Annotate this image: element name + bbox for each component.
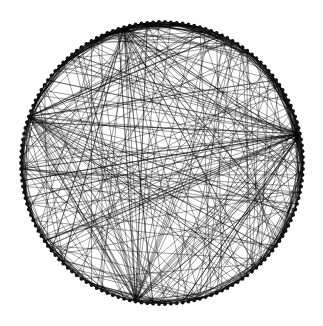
node bbox=[267, 69, 271, 73]
node bbox=[111, 293, 115, 297]
node bbox=[298, 132, 302, 136]
node bbox=[259, 262, 263, 266]
node bbox=[117, 295, 121, 299]
node bbox=[111, 29, 115, 33]
node bbox=[85, 280, 89, 284]
node bbox=[278, 239, 282, 243]
node bbox=[80, 277, 84, 281]
node bbox=[20, 149, 24, 153]
node bbox=[90, 39, 94, 43]
node bbox=[271, 249, 275, 253]
node bbox=[70, 270, 74, 274]
node bbox=[241, 45, 245, 49]
node bbox=[181, 22, 185, 26]
node bbox=[151, 302, 155, 306]
node bbox=[34, 224, 38, 228]
node bbox=[271, 74, 275, 78]
node bbox=[140, 301, 144, 305]
node bbox=[22, 190, 26, 194]
node bbox=[43, 83, 47, 87]
node bbox=[267, 253, 271, 257]
node bbox=[220, 289, 224, 293]
node bbox=[293, 208, 297, 212]
node bbox=[293, 115, 297, 119]
node bbox=[66, 266, 70, 270]
node bbox=[19, 161, 23, 165]
node bbox=[29, 109, 33, 113]
node bbox=[75, 273, 79, 277]
node bbox=[295, 202, 299, 206]
node bbox=[250, 270, 254, 274]
node bbox=[284, 93, 288, 97]
node bbox=[192, 24, 196, 28]
node bbox=[61, 60, 65, 64]
node bbox=[278, 83, 282, 87]
node bbox=[284, 229, 288, 233]
node bbox=[19, 155, 23, 159]
node bbox=[299, 138, 303, 142]
node bbox=[192, 298, 196, 302]
node bbox=[21, 185, 25, 189]
node bbox=[134, 300, 138, 304]
node bbox=[37, 93, 41, 97]
node bbox=[25, 202, 29, 206]
edges-layer bbox=[21, 22, 303, 304]
node bbox=[95, 36, 99, 40]
node bbox=[100, 289, 104, 293]
node bbox=[198, 297, 202, 301]
node bbox=[281, 234, 285, 238]
node bbox=[66, 56, 70, 60]
node bbox=[263, 258, 267, 262]
node bbox=[61, 262, 65, 266]
node bbox=[263, 65, 267, 69]
node bbox=[298, 190, 302, 194]
node bbox=[175, 21, 179, 25]
node bbox=[122, 297, 126, 301]
node bbox=[27, 208, 31, 212]
node bbox=[295, 120, 299, 124]
node bbox=[34, 98, 38, 102]
node bbox=[301, 161, 305, 165]
node bbox=[134, 23, 138, 27]
node bbox=[46, 78, 50, 82]
node bbox=[301, 167, 305, 171]
node bbox=[43, 239, 47, 243]
node bbox=[22, 132, 26, 136]
node bbox=[40, 234, 44, 238]
node bbox=[225, 36, 229, 40]
node bbox=[274, 78, 278, 82]
node bbox=[281, 88, 285, 92]
node bbox=[50, 249, 54, 253]
node bbox=[259, 60, 263, 64]
node bbox=[85, 42, 89, 46]
node bbox=[236, 280, 240, 284]
node bbox=[209, 293, 213, 297]
node bbox=[106, 31, 110, 35]
node bbox=[204, 27, 208, 31]
node bbox=[297, 126, 301, 130]
node bbox=[220, 34, 224, 38]
node bbox=[128, 24, 132, 28]
node bbox=[225, 286, 229, 290]
node bbox=[245, 49, 249, 53]
node bbox=[204, 295, 208, 299]
node bbox=[187, 23, 191, 27]
node bbox=[21, 138, 25, 142]
network-diagram bbox=[0, 0, 323, 326]
node bbox=[187, 300, 191, 304]
node bbox=[57, 258, 61, 262]
node bbox=[29, 213, 33, 217]
node bbox=[25, 120, 29, 124]
node bbox=[245, 273, 249, 277]
node bbox=[57, 65, 61, 69]
node bbox=[231, 283, 235, 287]
node bbox=[145, 21, 149, 25]
node bbox=[20, 173, 24, 177]
node bbox=[31, 104, 35, 108]
node bbox=[169, 20, 173, 24]
node bbox=[175, 301, 179, 305]
node bbox=[37, 229, 41, 233]
node bbox=[231, 39, 235, 43]
node bbox=[117, 27, 121, 31]
node bbox=[157, 302, 161, 306]
